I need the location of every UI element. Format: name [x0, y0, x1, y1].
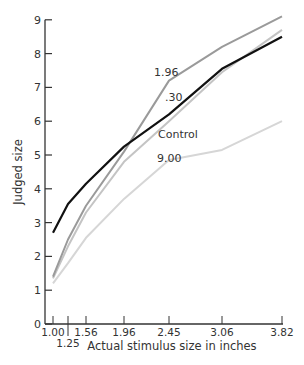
y-tick-label: 9 — [34, 14, 41, 27]
series-annotation: .30 — [165, 91, 183, 104]
y-tick-label: 3 — [34, 217, 41, 230]
x-axis-label: Actual stimulus size in inches — [87, 339, 256, 353]
y-axis-label: Judged size — [11, 139, 25, 206]
x-tick-label: 3.06 — [210, 326, 234, 338]
y-tick-label: 1 — [34, 284, 41, 297]
axes: 01234567891.001.251.561.962.453.063.82 — [34, 14, 294, 349]
y-tick-label: 8 — [34, 48, 41, 61]
series-annotation: 1.96 — [154, 66, 179, 79]
y-tick-label: 5 — [34, 149, 41, 162]
y-tick-label: 7 — [34, 81, 41, 94]
y-tick-label: 4 — [34, 183, 41, 196]
series-lines — [53, 16, 282, 283]
x-tick-label: 1.25 — [56, 337, 79, 349]
y-tick-label: 2 — [34, 250, 41, 263]
x-tick-label: 1.56 — [74, 326, 98, 338]
y-tick-label: 6 — [34, 115, 41, 128]
series-annotation: 9.00 — [157, 152, 182, 165]
x-tick-label: 2.45 — [157, 326, 180, 338]
series-annotation: Control — [158, 128, 198, 141]
y-tick-label: 0 — [34, 318, 41, 331]
x-tick-label: 1.96 — [112, 326, 136, 338]
x-tick-label: 3.82 — [270, 326, 293, 338]
line-chart: 01234567891.001.251.561.962.453.063.82 1… — [0, 0, 304, 365]
